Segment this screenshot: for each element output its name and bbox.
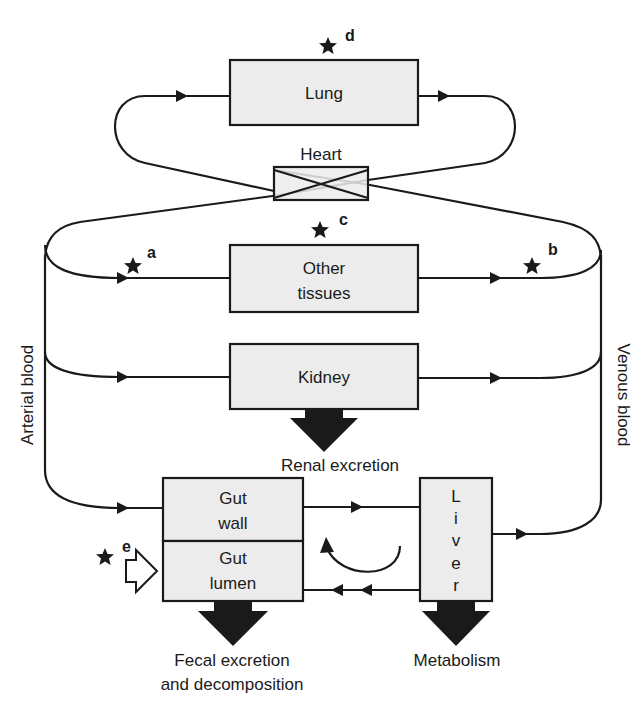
- gut-lumen-label-line1: Gut: [219, 549, 247, 568]
- diagram-canvas: Lung Heart Arterial blood Venous blood: [0, 0, 643, 714]
- portal-connections: [303, 501, 420, 596]
- liver-letter: e: [451, 554, 460, 573]
- marker-b-label: b: [548, 241, 558, 258]
- liver-letter: r: [453, 576, 459, 595]
- star-e-icon: [96, 548, 114, 565]
- arrow-to-gut-icon: [117, 502, 129, 514]
- renal-excretion-arrow-icon: [290, 409, 358, 452]
- biliary-arrow-2-icon: [360, 584, 372, 596]
- fecal-excretion-label-line1: Fecal excretion: [174, 651, 289, 670]
- gut-compartment: Gut wall Gut lumen Fecal excretion and d…: [126, 478, 303, 694]
- arrow-to-other-tissues-icon: [117, 272, 129, 284]
- star-d-icon: [319, 37, 337, 54]
- star-a-icon: [124, 257, 142, 274]
- pbpk-diagram: Lung Heart Arterial blood Venous blood: [0, 0, 643, 714]
- biliary-arrow-1-icon: [331, 584, 343, 596]
- oral-dose-arrow-icon: [126, 550, 157, 592]
- heart-label: Heart: [300, 145, 342, 164]
- star-b-icon: [523, 257, 541, 274]
- arterial-blood-label: Arterial blood: [18, 345, 37, 445]
- metabolism-label: Metabolism: [414, 651, 501, 670]
- arrow-from-lung-icon: [438, 90, 450, 102]
- other-tissues-label-line2: tissues: [298, 284, 351, 303]
- gut-wall-label-line2: wall: [217, 514, 247, 533]
- arrow-to-kidney-icon: [117, 371, 129, 383]
- lung-label: Lung: [305, 84, 343, 103]
- other-tissues-compartment: Other tissues: [230, 245, 418, 312]
- marker-d-label: d: [345, 27, 355, 44]
- fecal-excretion-label-line2: and decomposition: [161, 675, 304, 694]
- arrow-to-liver-icon: [351, 501, 363, 513]
- liver-compartment: L i v e r Metabolism: [414, 478, 501, 670]
- other-tissues-label-line1: Other: [303, 259, 346, 278]
- liver-letter: i: [454, 509, 458, 528]
- arterial-blood-line: Arterial blood: [18, 245, 230, 514]
- lung-compartment: Lung: [230, 60, 418, 125]
- fecal-excretion-arrow-icon: [198, 601, 268, 646]
- star-c-icon: [311, 221, 329, 238]
- liver-letter: L: [451, 487, 460, 506]
- arrow-from-other-tissues-icon: [490, 272, 502, 284]
- gut-lumen-label-line2: lumen: [210, 574, 256, 593]
- arrow-from-liver-icon: [516, 528, 528, 540]
- gut-wall-label-line1: Gut: [219, 489, 247, 508]
- reabsorption-arrow-icon: [320, 537, 334, 553]
- marker-c-label: c: [339, 211, 348, 228]
- kidney-label: Kidney: [298, 368, 350, 387]
- arrow-from-kidney-icon: [490, 372, 502, 384]
- heart-compartment: Heart: [274, 145, 368, 200]
- marker-a-label: a: [147, 244, 156, 261]
- kidney-compartment: Kidney Renal excretion: [230, 344, 418, 475]
- renal-excretion-label: Renal excretion: [281, 456, 399, 475]
- metabolism-arrow-icon: [422, 601, 490, 646]
- liver-letter: v: [452, 531, 461, 550]
- venous-blood-label: Venous blood: [614, 343, 633, 446]
- arrow-to-lung-icon: [176, 90, 188, 102]
- marker-e-label: e: [122, 538, 131, 555]
